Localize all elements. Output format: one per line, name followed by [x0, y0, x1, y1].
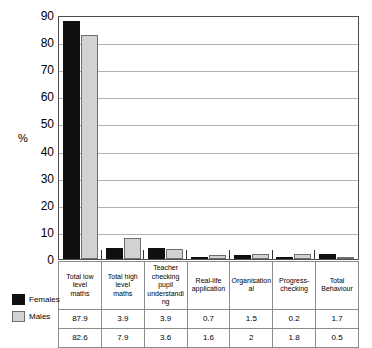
y-axis-tick-label: 70: [26, 64, 54, 76]
x-axis-tick: [314, 250, 315, 259]
bar-males: [252, 254, 269, 259]
x-axis-tick: [186, 250, 187, 259]
bar-females: [191, 257, 208, 259]
bar-females: [148, 248, 165, 259]
category-cell: Total highlevelmaths: [101, 262, 144, 310]
y-axis-tick-label: 60: [26, 91, 54, 103]
y-axis-tick-label: 30: [26, 173, 54, 185]
category-cell: Organisational: [230, 262, 273, 310]
bar-males: [294, 254, 311, 259]
value-cell: 1.8: [273, 328, 316, 347]
legend-item-males: Males: [12, 311, 58, 322]
category-cell: Real-lifeapplication: [187, 262, 230, 310]
bar-group: [230, 17, 273, 259]
x-axis-tick: [272, 250, 273, 259]
plot-area: [58, 16, 359, 260]
value-cell: 82.6: [59, 328, 102, 347]
legend-label-females: Females: [29, 295, 60, 304]
table-row-males: 82.67.93.61.621.80.5: [59, 328, 359, 347]
bar-group: [144, 17, 187, 259]
value-cell: 2: [230, 328, 273, 347]
value-cell: 3.6: [144, 328, 187, 347]
value-cell: 1.5: [230, 309, 273, 328]
category-cell: Teacherchecking pupilunderstanding: [144, 262, 187, 310]
value-cell: 87.9: [59, 309, 102, 328]
bar-group: [187, 17, 230, 259]
x-axis-tick: [101, 250, 102, 259]
bar-group: [102, 17, 145, 259]
x-axis-tick: [143, 250, 144, 259]
y-axis-tick-label: 10: [26, 227, 54, 239]
category-cell: Progress-checking: [273, 262, 316, 310]
bar-males: [81, 35, 98, 259]
category-cell: Total lowlevelmaths: [59, 262, 102, 310]
bar-males: [124, 238, 141, 259]
bar-females: [63, 21, 80, 259]
value-cell: 1.7: [316, 309, 359, 328]
table-row-categories: Total lowlevelmathsTotal highlevelmathsT…: [59, 262, 359, 310]
y-axis-tick-label: 20: [26, 200, 54, 212]
value-cell: 1.6: [187, 328, 230, 347]
bar-females: [276, 257, 293, 259]
y-axis-tick-label: 80: [26, 37, 54, 49]
y-axis-tick-labels: 9080706050403020100: [26, 16, 54, 260]
legend-swatch-males: [12, 311, 25, 322]
legend-item-females: Females: [12, 294, 58, 305]
bar-males: [166, 249, 183, 259]
legend-swatch-females: [12, 294, 25, 305]
bar-males: [337, 257, 354, 259]
y-axis-tick-label: 50: [26, 118, 54, 130]
x-axis-tick: [229, 250, 230, 259]
legend-label-males: Males: [29, 312, 50, 321]
y-axis-tick-label: 90: [26, 10, 54, 22]
bar-females: [319, 254, 336, 259]
bar-group: [273, 17, 316, 259]
value-cell: 3.9: [101, 309, 144, 328]
bar-group: [315, 17, 358, 259]
data-table: Total lowlevelmathsTotal highlevelmathsT…: [58, 261, 359, 348]
value-cell: 0.2: [273, 309, 316, 328]
value-cell: 0.7: [187, 309, 230, 328]
bar-females: [234, 255, 251, 259]
bars-layer: [59, 17, 358, 259]
value-cell: 3.9: [144, 309, 187, 328]
bar-males: [209, 255, 226, 259]
y-axis-tick-label: 0: [26, 254, 54, 266]
table-row-females: 87.93.93.90.71.50.21.7: [59, 309, 359, 328]
y-axis-tick-label: 40: [26, 146, 54, 158]
category-cell: TotalBehaviour: [316, 262, 359, 310]
value-cell: 0.5: [316, 328, 359, 347]
bar-group: [59, 17, 102, 259]
bar-females: [106, 248, 123, 259]
value-cell: 7.9: [101, 328, 144, 347]
